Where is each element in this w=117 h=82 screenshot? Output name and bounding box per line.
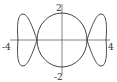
x-min-label: -4 xyxy=(2,42,11,52)
y-max-label: 2 xyxy=(56,3,62,13)
x-max-label: 4 xyxy=(108,42,114,52)
y-min-label: -2 xyxy=(54,72,63,82)
plot-canvas: -4 4 2 -2 xyxy=(0,0,117,82)
